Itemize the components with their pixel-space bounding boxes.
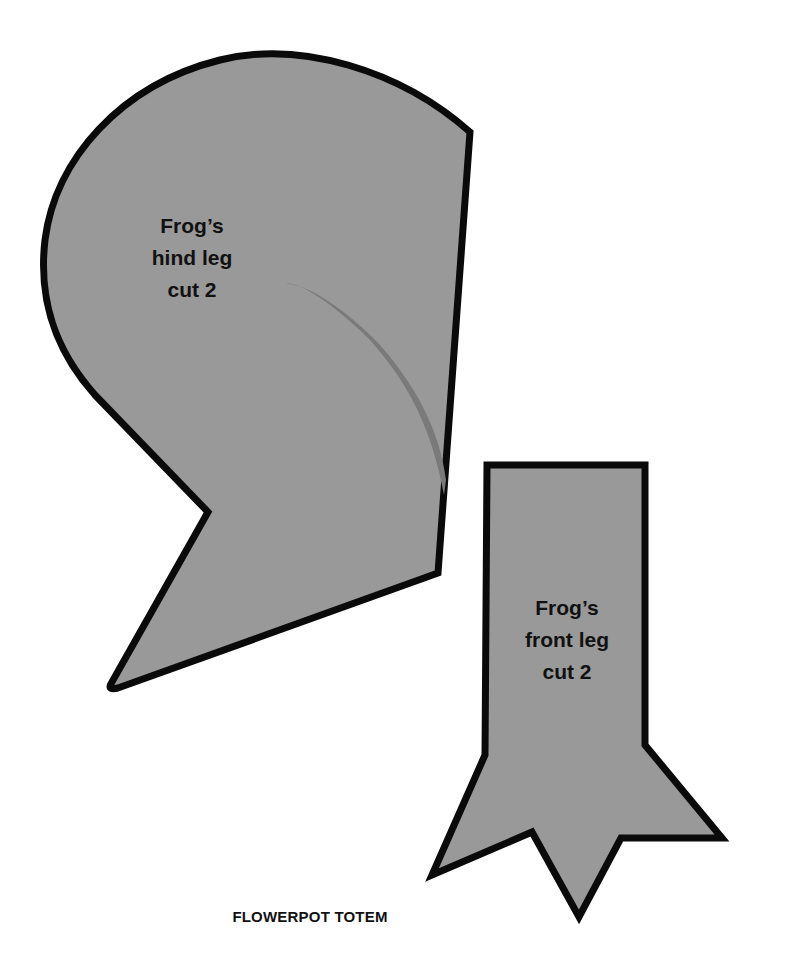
- sheet-title: FLOWERPOT TOTEM: [200, 908, 420, 925]
- pattern-sheet: [0, 0, 787, 974]
- hind-leg-label-line-2: hind leg: [132, 242, 252, 274]
- front-leg-label: Frog’s front leg cut 2: [507, 592, 627, 688]
- hind-leg-label: Frog’s hind leg cut 2: [132, 210, 252, 306]
- front-leg-label-line-2: front leg: [507, 624, 627, 656]
- hind-leg-label-line-1: Frog’s: [132, 210, 252, 242]
- front-leg-piece: [432, 465, 722, 917]
- front-leg-label-line-3: cut 2: [507, 656, 627, 688]
- hind-leg-label-line-3: cut 2: [132, 274, 252, 306]
- hind-leg-piece: [43, 54, 470, 689]
- front-leg-shape: [432, 465, 722, 917]
- front-leg-label-line-1: Frog’s: [507, 592, 627, 624]
- hind-leg-shape: [43, 54, 470, 689]
